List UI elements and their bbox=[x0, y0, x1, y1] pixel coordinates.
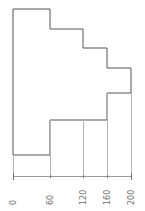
tick-label-160: 160 bbox=[103, 190, 112, 205]
tick-label-200: 200 bbox=[127, 190, 136, 205]
tick-label-60: 60 bbox=[46, 195, 55, 205]
chart-canvas: 0 60 120 160 200 bbox=[0, 0, 145, 211]
tick-label-120: 120 bbox=[79, 190, 88, 205]
step-plot: 0 60 120 160 200 bbox=[0, 0, 145, 211]
step-outline-path bbox=[13, 9, 131, 155]
tick-label-0: 0 bbox=[9, 200, 18, 205]
